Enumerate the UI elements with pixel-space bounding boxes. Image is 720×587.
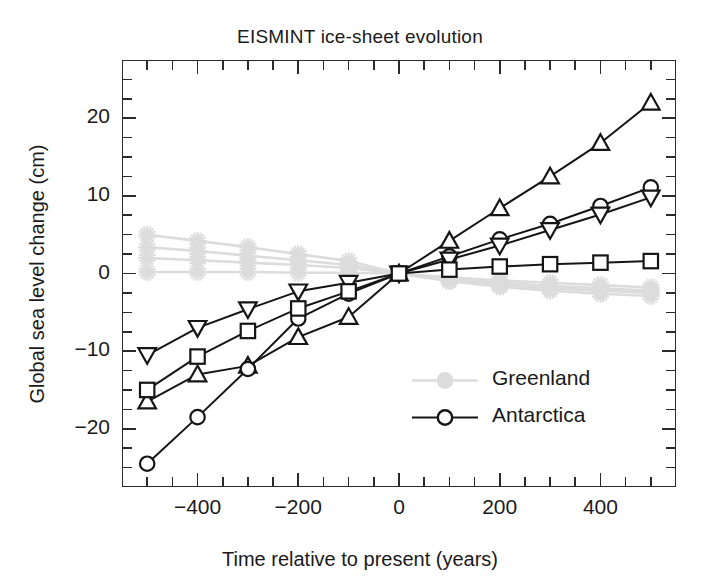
chart-legend: GreenlandAntarctica	[408, 362, 658, 436]
legend-swatch-antarctica	[408, 399, 482, 436]
legend-item-antarctica: Antarctica	[408, 399, 658, 436]
y-tick-major-right	[662, 273, 675, 275]
x-tick-minor	[222, 477, 224, 486]
y-tick-minor	[123, 467, 132, 469]
x-tick-minor-top	[574, 61, 576, 70]
y-tick-minor-right	[666, 447, 675, 449]
x-tick-minor-top	[146, 61, 148, 70]
data-point-marker	[239, 302, 257, 318]
x-tick-major	[398, 473, 400, 486]
y-tick-minor-right	[666, 312, 675, 314]
x-tick-minor	[272, 477, 274, 486]
data-point-marker	[140, 383, 154, 397]
y-tick-minor	[123, 292, 132, 294]
x-tick-minor-top	[474, 61, 476, 70]
figure: EISMINT ice-sheet evolution Global sea l…	[0, 0, 720, 587]
y-tick-minor-right	[666, 214, 675, 216]
y-tick-minor-right	[666, 253, 675, 255]
data-point-marker	[239, 263, 257, 281]
x-tick-minor	[146, 477, 148, 486]
x-tick-major	[197, 473, 199, 486]
legend-item-greenland: Greenland	[408, 362, 658, 399]
x-tick-minor	[474, 477, 476, 486]
x-tick-minor	[247, 477, 249, 486]
x-tick-minor-top	[373, 61, 375, 70]
x-tick-label: −200	[253, 495, 343, 519]
data-point-marker	[591, 285, 609, 303]
data-point-marker	[491, 278, 509, 296]
data-point-marker	[442, 262, 456, 276]
data-point-marker	[241, 362, 255, 376]
y-tick-minor-right	[666, 331, 675, 333]
x-tick-minor	[650, 477, 652, 486]
y-tick-label: 0	[52, 260, 110, 284]
y-tick-minor	[123, 137, 132, 139]
x-tick-minor-top	[524, 61, 526, 70]
x-tick-minor-top	[272, 61, 274, 70]
x-tick-minor-top	[222, 61, 224, 70]
data-point-marker	[644, 254, 658, 268]
y-tick-minor	[123, 176, 132, 178]
y-tick-label: −10	[52, 337, 110, 361]
y-tick-label: −20	[52, 415, 110, 439]
y-tick-major-right	[662, 428, 675, 430]
x-tick-minor	[373, 477, 375, 486]
x-tick-major	[499, 473, 501, 486]
legend-swatch-greenland	[408, 362, 482, 399]
x-tick-label: 200	[455, 495, 545, 519]
y-tick-minor-right	[666, 98, 675, 100]
data-point-marker	[190, 410, 204, 424]
data-point-marker	[642, 287, 660, 305]
y-tick-minor-right	[666, 176, 675, 178]
x-tick-minor	[323, 477, 325, 486]
y-tick-minor	[123, 331, 132, 333]
y-tick-major	[123, 428, 136, 430]
x-tick-minor-top	[625, 61, 627, 70]
y-tick-minor-right	[666, 389, 675, 391]
data-point-marker	[138, 348, 156, 364]
x-tick-minor	[625, 477, 627, 486]
y-tick-minor-right	[666, 292, 675, 294]
x-tick-minor-top	[449, 61, 451, 70]
y-tick-minor-right	[666, 79, 675, 81]
data-point-marker	[289, 328, 307, 344]
y-tick-major-right	[662, 117, 675, 119]
x-tick-label: −400	[153, 495, 243, 519]
y-tick-minor	[123, 409, 132, 411]
data-point-marker	[341, 284, 355, 298]
data-point-marker	[541, 168, 559, 184]
x-tick-minor	[449, 477, 451, 486]
x-tick-minor-top	[423, 61, 425, 70]
x-tick-minor-top	[650, 61, 652, 70]
y-tick-major-right	[662, 195, 675, 197]
x-tick-major	[297, 473, 299, 486]
y-tick-major	[123, 273, 136, 275]
y-tick-minor-right	[666, 409, 675, 411]
y-tick-minor	[123, 389, 132, 391]
x-tick-minor-top	[172, 61, 174, 70]
y-tick-minor-right	[666, 370, 675, 372]
data-point-marker	[441, 232, 459, 248]
data-point-marker	[593, 255, 607, 269]
data-point-marker	[642, 94, 660, 110]
x-tick-minor-top	[323, 61, 325, 70]
x-tick-minor	[549, 477, 551, 486]
data-point-marker	[190, 349, 204, 363]
chart-title: EISMINT ice-sheet evolution	[0, 26, 720, 48]
x-tick-minor	[348, 477, 350, 486]
y-tick-label: 20	[52, 104, 110, 128]
data-point-marker	[642, 191, 660, 207]
y-tick-minor	[123, 156, 132, 158]
y-tick-major	[123, 350, 136, 352]
data-point-marker	[543, 257, 557, 271]
legend-label: Antarctica	[492, 403, 585, 427]
y-axis-title: Global sea level change (cm)	[26, 144, 49, 403]
y-tick-minor-right	[666, 467, 675, 469]
x-tick-major-top	[197, 61, 199, 74]
x-tick-major	[600, 473, 602, 486]
x-tick-major-top	[499, 61, 501, 74]
x-tick-label: 400	[555, 495, 645, 519]
data-point-marker	[291, 301, 305, 315]
x-tick-minor	[524, 477, 526, 486]
data-point-marker	[289, 264, 307, 282]
